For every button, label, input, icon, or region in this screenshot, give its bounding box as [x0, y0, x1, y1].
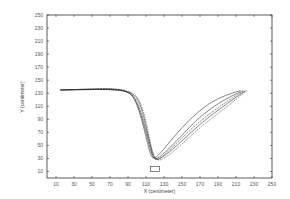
y-tick-label: 170 — [35, 64, 44, 70]
x-tick-label: 90 — [125, 181, 131, 187]
x-tick-label: 170 — [196, 181, 205, 187]
x-tick-label: 30 — [71, 181, 77, 187]
y-tick-label: 130 — [35, 90, 44, 96]
x-axis-tick-labels: 1030507090110130150170190210230250 — [53, 181, 276, 187]
series-line — [61, 89, 247, 160]
series-line — [61, 89, 246, 159]
x-tick-label: 250 — [268, 181, 277, 187]
y-tick-label: 230 — [35, 25, 44, 31]
y-tick-label: 250 — [35, 12, 44, 18]
y-tick-label: 150 — [35, 77, 44, 83]
annotations — [151, 166, 160, 171]
y-tick-label: 90 — [37, 116, 43, 122]
y-tick-label: 190 — [35, 51, 44, 57]
y-tick-label: 210 — [35, 38, 44, 44]
x-tick-label: 150 — [178, 181, 187, 187]
trajectory-chart: 1030507090110130150170190210230250 10305… — [0, 0, 290, 199]
x-axis-label: X (centimeter) — [144, 188, 176, 194]
x-tick-label: 110 — [142, 181, 150, 187]
x-tick-label: 130 — [160, 181, 169, 187]
x-tick-label: 230 — [250, 181, 259, 187]
x-tick-label: 10 — [53, 181, 59, 187]
x-tick-label: 70 — [107, 181, 113, 187]
y-tick-label: 10 — [37, 168, 43, 174]
y-axis-label: Y (centimeter) — [19, 81, 25, 113]
series-line — [61, 89, 246, 160]
y-axis-tick-labels: 1030507090110130150170190210230250 — [35, 12, 44, 174]
x-tick-label: 50 — [89, 181, 95, 187]
target-rectangle — [151, 166, 160, 171]
data-series — [61, 89, 247, 160]
x-tick-label: 190 — [214, 181, 223, 187]
y-tick-label: 110 — [35, 103, 43, 109]
series-line — [61, 89, 241, 158]
y-tick-label: 30 — [37, 155, 43, 161]
y-tick-label: 50 — [37, 142, 43, 148]
y-tick-label: 70 — [37, 129, 43, 135]
x-tick-label: 210 — [232, 181, 241, 187]
